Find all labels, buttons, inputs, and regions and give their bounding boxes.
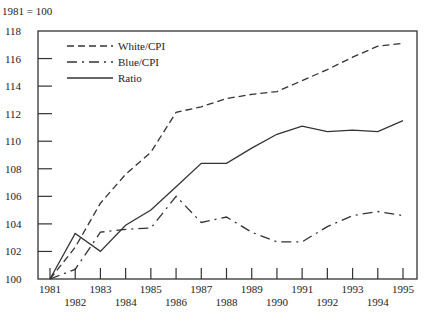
x-tick-label: 1981 — [39, 283, 61, 295]
y-tick-label: 100 — [5, 273, 22, 285]
y-tick-label: 104 — [5, 218, 22, 230]
x-tick-label: 1992 — [316, 296, 338, 308]
plot-frame — [38, 31, 417, 279]
y-tick-label: 106 — [5, 190, 22, 202]
x-tick-label: 1984 — [115, 296, 138, 308]
x-tick-label: 1991 — [291, 283, 313, 295]
legend-label: Blue/CPI — [118, 56, 159, 68]
x-axis-ticks: 1981198219831984198519861987198819891990… — [39, 268, 415, 308]
y-tick-label: 112 — [5, 108, 21, 120]
legend-label: Ratio — [118, 72, 142, 84]
series-line-ratio — [50, 121, 403, 279]
y-tick-label: 118 — [5, 25, 22, 37]
x-tick-label: 1995 — [392, 283, 415, 295]
x-tick-label: 1985 — [140, 283, 163, 295]
series-lines — [50, 43, 403, 279]
x-tick-label: 1993 — [342, 283, 365, 295]
x-tick-label: 1990 — [266, 296, 289, 308]
y-tick-label: 114 — [5, 80, 22, 92]
legend: White/CPIBlue/CPIRatio — [67, 40, 165, 84]
y-axis-ticks: 100102104106108110112114116118 — [5, 25, 52, 285]
series-line-white-cpi — [50, 43, 403, 279]
line-chart: 1981 = 100 10010210410610811011211411611… — [0, 0, 430, 323]
y-tick-label: 102 — [5, 245, 22, 257]
x-tick-label: 1994 — [367, 296, 390, 308]
y-tick-label: 110 — [5, 135, 22, 147]
x-tick-label: 1983 — [89, 283, 112, 295]
index-note: 1981 = 100 — [2, 5, 53, 17]
x-tick-label: 1986 — [165, 296, 188, 308]
legend-label: White/CPI — [118, 40, 165, 52]
y-tick-label: 108 — [5, 163, 22, 175]
y-tick-label: 116 — [5, 53, 22, 65]
x-tick-label: 1989 — [241, 283, 264, 295]
x-tick-label: 1987 — [190, 283, 213, 295]
series-line-blue-cpi — [50, 196, 403, 279]
x-tick-label: 1988 — [216, 296, 239, 308]
x-tick-label: 1982 — [64, 296, 86, 308]
